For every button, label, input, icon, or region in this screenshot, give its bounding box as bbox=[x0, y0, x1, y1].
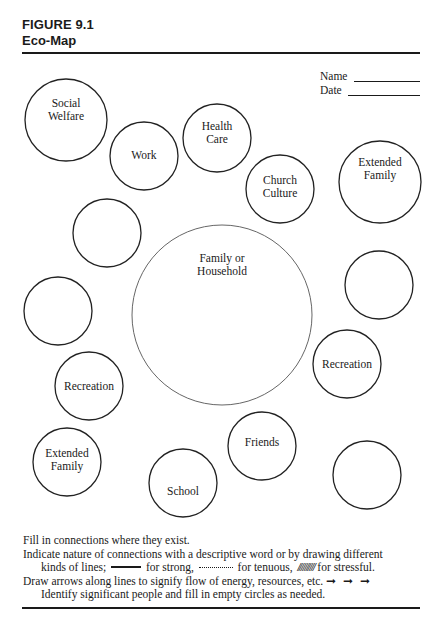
circle-outline[interactable] bbox=[149, 449, 217, 517]
strong-label: for strong, bbox=[146, 561, 194, 573]
circle-label: Welfare bbox=[48, 110, 84, 122]
circle-empty-lower-right[interactable] bbox=[333, 441, 401, 509]
circle-outline[interactable] bbox=[339, 141, 421, 223]
circle-label: Health bbox=[202, 120, 233, 132]
arrow-icons: ➞ ➞ ➞ bbox=[326, 575, 372, 587]
stressful-label: for stressful. bbox=[317, 561, 375, 573]
circle-family-household[interactable]: Family orHousehold bbox=[132, 225, 312, 405]
instruction-fill-connections: Fill in connections where they exist. bbox=[23, 534, 433, 548]
circle-outline[interactable] bbox=[345, 251, 413, 319]
circle-label: Family bbox=[364, 169, 397, 182]
circle-extended-family-right[interactable]: ExtendedFamily bbox=[339, 141, 421, 223]
circle-label: Recreation bbox=[322, 358, 372, 370]
tenuous-line-sample bbox=[199, 567, 233, 568]
circle-label: Family bbox=[51, 460, 84, 473]
circle-label: Family or bbox=[199, 252, 244, 265]
circle-school[interactable]: School bbox=[149, 449, 217, 517]
strong-line-sample bbox=[111, 566, 141, 568]
instruction-indicate-nature: Indicate nature of connections with a de… bbox=[23, 548, 433, 562]
stressful-line-sample: ////////// bbox=[297, 561, 314, 573]
circle-label: School bbox=[167, 485, 199, 497]
circle-empty-upper-left[interactable] bbox=[73, 199, 141, 267]
circle-friends[interactable]: Friends bbox=[228, 412, 296, 480]
instructions: Fill in connections where they exist. In… bbox=[23, 534, 433, 602]
circle-outline[interactable] bbox=[333, 441, 401, 509]
system-circles: SocialWelfareWorkHealthCareChurchCulture… bbox=[24, 79, 421, 517]
circle-label: Household bbox=[197, 265, 247, 277]
circle-recreation-left[interactable]: Recreation bbox=[55, 352, 123, 420]
line-kinds-prefix: kinds of lines; bbox=[41, 561, 106, 573]
circle-label: Recreation bbox=[64, 380, 114, 392]
circle-church-culture[interactable]: ChurchCulture bbox=[246, 155, 314, 223]
eco-map-diagram: Family orHousehold SocialWelfareWorkHeal… bbox=[0, 0, 441, 620]
instruction-line-kinds: kinds of lines; for strong, for tenuous,… bbox=[23, 561, 433, 575]
instruction-draw-arrows: Draw arrows along lines to signify flow … bbox=[23, 575, 433, 589]
family-household-circle[interactable]: Family orHousehold bbox=[132, 225, 312, 405]
circle-label: Culture bbox=[263, 187, 298, 199]
circle-health-care[interactable]: HealthCare bbox=[183, 104, 251, 172]
bottom-rule bbox=[22, 607, 420, 609]
tenuous-label: for tenuous, bbox=[238, 561, 293, 573]
circle-label: Work bbox=[131, 149, 157, 161]
circle-label: Church bbox=[263, 174, 297, 186]
circle-social-welfare[interactable]: SocialWelfare bbox=[25, 79, 107, 161]
instruction-identify-people: Identify significant people and fill in … bbox=[23, 588, 433, 602]
circle-label: Friends bbox=[245, 436, 280, 448]
circle-recreation-right[interactable]: Recreation bbox=[313, 330, 381, 398]
circle-outline[interactable] bbox=[73, 199, 141, 267]
circle-empty-left[interactable] bbox=[24, 277, 92, 345]
circle-label: Social bbox=[52, 97, 81, 109]
circle-work[interactable]: Work bbox=[110, 122, 178, 190]
circle-label: Care bbox=[206, 133, 228, 145]
circle-empty-right[interactable] bbox=[345, 251, 413, 319]
circle-label: Extended bbox=[358, 156, 402, 168]
circle-outline[interactable] bbox=[24, 277, 92, 345]
circle-extended-family-left[interactable]: ExtendedFamily bbox=[33, 428, 101, 496]
circle-label: Extended bbox=[45, 447, 89, 459]
draw-arrows-text: Draw arrows along lines to signify flow … bbox=[23, 575, 323, 587]
